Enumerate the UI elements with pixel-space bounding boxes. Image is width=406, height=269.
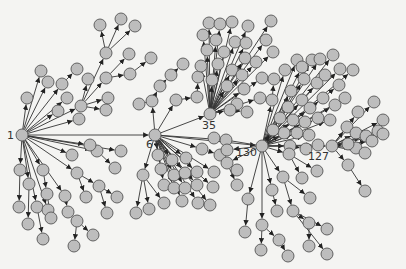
graph-node (377, 114, 389, 126)
graph-node (191, 166, 203, 178)
edge-arrow (161, 116, 204, 133)
edge-arrow (236, 111, 241, 112)
graph-node (296, 172, 308, 184)
graph-node (240, 37, 252, 49)
graph-node (23, 178, 35, 190)
graph-node (299, 116, 311, 128)
graph-node (192, 71, 204, 83)
graph-node (303, 129, 315, 141)
edge-arrow (292, 159, 299, 172)
graph-node (229, 36, 241, 48)
graph-node (342, 159, 354, 171)
graph-node (221, 80, 233, 92)
edge-arrow (20, 141, 21, 164)
graph-node (231, 164, 243, 176)
graph-node (73, 113, 85, 125)
network-diagram: 1635130127 (0, 0, 406, 269)
hub-node-130 (256, 140, 268, 152)
graph-node (94, 19, 106, 31)
graph-node (298, 73, 310, 85)
graph-node (143, 203, 155, 215)
edge-arrow (87, 107, 100, 109)
graph-node (368, 96, 380, 108)
graph-node (278, 127, 290, 139)
graph-node (93, 180, 105, 192)
graph-node (287, 114, 299, 126)
graph-node (214, 18, 226, 30)
graph-node (287, 205, 299, 217)
graph-node (238, 83, 250, 95)
graph-node (155, 163, 167, 175)
graph-node (239, 226, 251, 238)
graph-node (123, 48, 135, 60)
edge-arrow (101, 155, 110, 163)
graph-node (66, 149, 78, 161)
graph-node (191, 179, 203, 191)
graph-node (208, 132, 220, 144)
graph-node (41, 188, 53, 200)
graph-node (37, 233, 49, 245)
graph-node (109, 162, 121, 174)
graph-node (191, 91, 203, 103)
graph-node (260, 34, 272, 46)
graph-node (146, 95, 158, 107)
edge-arrow (246, 205, 248, 226)
graph-node (282, 250, 294, 262)
graph-node (195, 60, 207, 72)
graph-node (324, 114, 336, 126)
edge-arrow (82, 225, 89, 231)
edge-arrow (108, 25, 118, 48)
graph-node (311, 165, 323, 177)
graph-node (242, 20, 254, 32)
graph-node (283, 148, 295, 160)
edge-arrow (155, 92, 157, 96)
graph-node (342, 138, 354, 150)
edge-arrow (261, 231, 262, 244)
graph-node (352, 106, 364, 118)
graph-node (273, 234, 285, 246)
graph-node (37, 164, 49, 176)
graph-node (204, 199, 216, 211)
hub-label-130: 130 (236, 146, 257, 159)
graph-node (279, 64, 291, 76)
graph-node (334, 63, 346, 75)
graph-node (291, 127, 303, 139)
edge-arrow (104, 189, 111, 194)
graph-node (71, 167, 83, 179)
graph-node (154, 80, 166, 92)
graph-node (170, 94, 182, 106)
graph-node (82, 73, 94, 85)
graph-node (100, 72, 112, 84)
edge-arrow (158, 106, 173, 130)
graph-node (22, 218, 34, 230)
edge-arrow (44, 176, 46, 188)
graph-node (165, 69, 177, 81)
graph-node (68, 240, 80, 252)
graph-node (312, 112, 324, 124)
graph-node (203, 17, 215, 29)
graph-node (14, 164, 26, 176)
edge-arrow (182, 98, 191, 99)
graph-node (207, 181, 219, 193)
edge-arrow (75, 227, 77, 240)
graph-node (168, 169, 180, 181)
edge-arrow (144, 181, 148, 203)
graph-node (100, 104, 112, 116)
graph-node (35, 65, 47, 77)
graph-node (239, 52, 251, 64)
edge-arrow (273, 86, 274, 95)
node-layer (13, 13, 389, 262)
edge-arrow (137, 181, 142, 207)
graph-node (333, 79, 345, 91)
graph-node (84, 139, 96, 151)
graph-node (166, 154, 178, 166)
graph-node (130, 207, 142, 219)
edge-arrow (110, 30, 130, 49)
graph-node (231, 179, 243, 191)
graph-node (100, 47, 112, 59)
edge-arrow (87, 100, 102, 105)
graph-node (339, 92, 351, 104)
graph-node (314, 53, 326, 65)
edge-arrow (38, 213, 42, 233)
graph-node (271, 205, 283, 217)
